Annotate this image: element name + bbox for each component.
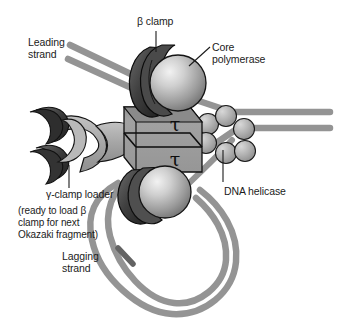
label-note-line3: Okazaki fragment) — [18, 229, 98, 240]
leader-core-polymerase — [189, 47, 210, 66]
label-leading-strand-line2: strand — [28, 49, 57, 61]
label-gamma-clamp-loader: γ-clamp loader — [46, 189, 113, 201]
core-polymerase-upper — [150, 55, 206, 111]
dna-replication-fork-figure: τ τ β clamp Core polymerase Leading stra… — [0, 0, 346, 327]
label-beta-clamp: β clamp — [137, 16, 173, 28]
label-lagging-strand-line2: strand — [62, 263, 91, 275]
label-note-line2: clamp for next — [18, 217, 79, 228]
tau-subunit-upper: τ — [170, 113, 181, 135]
label-leading-strand-line1: Leading — [28, 37, 65, 49]
label-core-polymerase-line1: Core — [212, 42, 234, 54]
tau-subunit-box — [124, 107, 202, 172]
label-dna-helicase: DNA helicase — [224, 186, 286, 198]
core-polymerase-lower — [139, 166, 191, 218]
label-lagging-strand-line1: Lagging — [62, 251, 99, 263]
label-core-polymerase-line2: polymerase — [212, 54, 265, 66]
label-note-line1: (ready to load β — [18, 205, 86, 216]
